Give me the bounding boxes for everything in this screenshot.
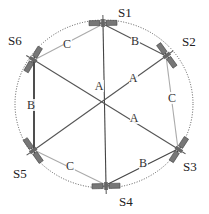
satellite-constellation-diagram: AAABBBCCCS1S2S3S4S5S6 xyxy=(0,0,209,214)
link-label: A xyxy=(129,71,138,85)
satellite-icon xyxy=(92,182,120,195)
link-label: B xyxy=(139,156,147,170)
link-label: A xyxy=(95,79,104,93)
satellite-label-s2: S2 xyxy=(182,34,196,49)
satellite-label-s3: S3 xyxy=(183,159,197,174)
link-label: B xyxy=(131,34,139,48)
diagram-canvas: AAABBBCCCS1S2S3S4S5S6 xyxy=(0,0,209,214)
link-s6-s3 xyxy=(34,60,178,149)
satellite-label-s1: S1 xyxy=(118,5,132,20)
link-label: C xyxy=(66,159,74,173)
satellite-label-s5: S5 xyxy=(13,166,27,181)
link-label: B xyxy=(27,98,35,112)
satellite-label-s6: S6 xyxy=(8,33,22,48)
link-label: A xyxy=(130,111,139,125)
satellite-icon xyxy=(155,39,181,69)
satellite-label-s4: S4 xyxy=(119,194,133,209)
link-label: C xyxy=(63,37,71,51)
link-label: C xyxy=(168,91,176,105)
satellite-icon xyxy=(89,15,117,27)
link-s2-s5 xyxy=(34,56,166,150)
satellite-icon xyxy=(19,137,45,167)
